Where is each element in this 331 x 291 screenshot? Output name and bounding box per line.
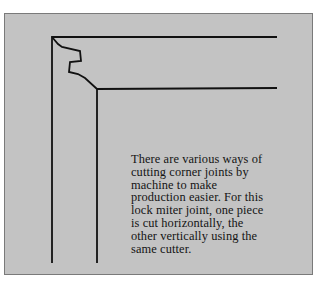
caption-line: is cut horizontally, the [131, 217, 276, 230]
caption-line: There are various ways of [131, 153, 276, 166]
caption-line: other vertically using the [131, 230, 276, 243]
figure-caption: There are various ways of cutting corner… [131, 153, 276, 255]
caption-line: same cutter. [131, 243, 276, 256]
joint-profile-line [52, 37, 97, 89]
caption-line: cutting corner joints by [131, 166, 276, 179]
